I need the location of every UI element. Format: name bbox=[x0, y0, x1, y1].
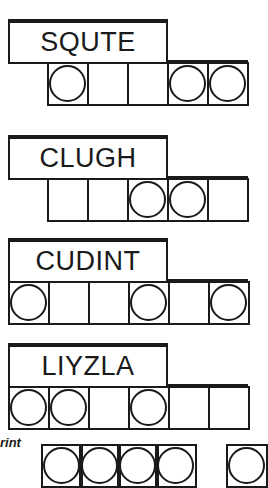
circle-marker-icon bbox=[228, 447, 265, 484]
circle-marker-icon bbox=[157, 447, 194, 484]
letter-slot-circled[interactable] bbox=[128, 281, 170, 325]
circle-marker-icon bbox=[130, 389, 167, 426]
final-letter-slot[interactable] bbox=[155, 444, 197, 488]
circle-marker-icon bbox=[169, 65, 206, 102]
answer-slots bbox=[47, 178, 249, 222]
circle-marker-icon bbox=[50, 389, 87, 426]
letter-slot-circled[interactable] bbox=[127, 178, 169, 222]
letter-slot-circled[interactable] bbox=[47, 62, 89, 106]
circle-marker-icon bbox=[129, 181, 166, 218]
letter-slot[interactable] bbox=[88, 386, 130, 430]
scrambled-word: CUDINT bbox=[36, 246, 141, 277]
letter-slot[interactable] bbox=[207, 178, 249, 222]
letter-slot[interactable] bbox=[47, 178, 89, 222]
letter-slot[interactable] bbox=[88, 281, 130, 325]
answer-slots bbox=[47, 62, 249, 106]
scrambled-word-box: CLUGH bbox=[8, 135, 168, 180]
letter-slot[interactable] bbox=[168, 281, 210, 325]
scrambled-word-box: SQUTE bbox=[8, 19, 168, 64]
circle-marker-icon bbox=[119, 447, 156, 484]
circle-marker-icon bbox=[169, 181, 206, 218]
circle-marker-icon bbox=[49, 65, 86, 102]
final-letter-slot[interactable] bbox=[117, 444, 159, 488]
circle-marker-icon bbox=[43, 447, 80, 484]
answer-slots bbox=[8, 281, 250, 325]
letter-slot[interactable] bbox=[87, 178, 129, 222]
letter-slot[interactable] bbox=[208, 386, 250, 430]
final-letter-slot[interactable] bbox=[79, 444, 121, 488]
final-letter-slot[interactable] bbox=[41, 444, 83, 488]
circle-marker-icon bbox=[10, 284, 47, 321]
final-letter-slot[interactable] bbox=[226, 444, 268, 488]
letter-slot-circled[interactable] bbox=[208, 281, 250, 325]
scrambled-word: SQUTE bbox=[40, 27, 136, 58]
letter-slot-circled[interactable] bbox=[48, 386, 90, 430]
circle-marker-icon bbox=[209, 65, 246, 102]
circle-marker-icon bbox=[210, 284, 247, 321]
letter-slot[interactable] bbox=[168, 386, 210, 430]
letter-slot-circled[interactable] bbox=[128, 386, 170, 430]
answer-slots bbox=[8, 386, 250, 430]
final-answer-row: rint bbox=[0, 439, 257, 449]
scrambled-word: CLUGH bbox=[39, 143, 136, 174]
scrambled-word: LIYZLA bbox=[41, 351, 134, 382]
circle-marker-icon bbox=[81, 447, 118, 484]
scrambled-word-box: CUDINT bbox=[8, 238, 168, 283]
circle-marker-icon bbox=[10, 389, 47, 426]
letter-slot-circled[interactable] bbox=[8, 386, 50, 430]
circle-marker-icon bbox=[130, 284, 167, 321]
letter-slot[interactable] bbox=[127, 62, 169, 106]
letter-slot[interactable] bbox=[87, 62, 129, 106]
letter-slot-circled[interactable] bbox=[167, 62, 209, 106]
letter-slot-circled[interactable] bbox=[8, 281, 50, 325]
letter-slot-circled[interactable] bbox=[167, 178, 209, 222]
letter-slot[interactable] bbox=[48, 281, 90, 325]
letter-slot-circled[interactable] bbox=[207, 62, 249, 106]
print-label: rint bbox=[0, 435, 21, 450]
scrambled-word-box: LIYZLA bbox=[8, 343, 168, 388]
